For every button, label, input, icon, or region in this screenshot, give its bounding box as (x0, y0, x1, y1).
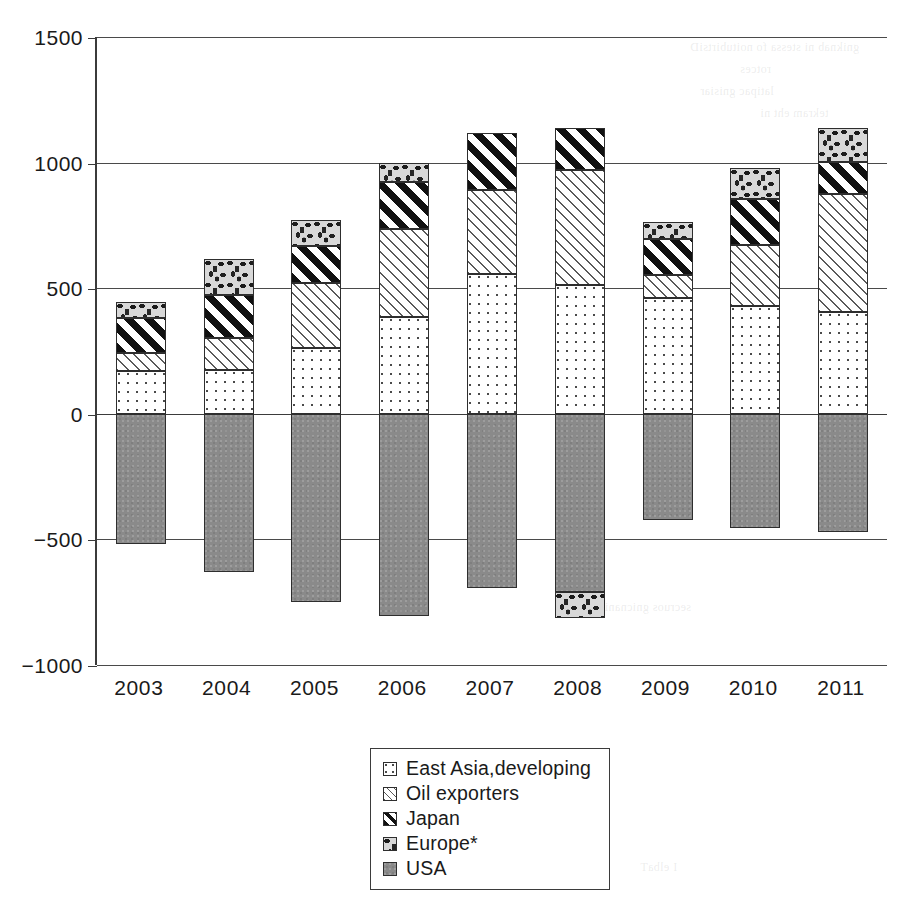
x-axis-label-2007: 2007 (465, 676, 514, 700)
legend-label: Oil exporters (406, 782, 519, 805)
bar-segment-2007-east-asia-developing[interactable] (467, 274, 517, 414)
bar-segment-2005-east-asia-developing[interactable] (291, 348, 341, 413)
y-axis-label-0: 0 (71, 403, 83, 427)
y-tick-mark-1500 (88, 38, 97, 39)
legend-label: Europe* (406, 832, 478, 855)
bar-segment-2005-oil-exporters[interactable] (291, 283, 341, 348)
legend-item-japan[interactable]: Japan (383, 806, 599, 831)
bar-segment-2005-usa[interactable] (291, 414, 341, 602)
legend-item-europe[interactable]: Europe* (383, 831, 599, 856)
x-axis-label-2004: 2004 (202, 676, 251, 700)
legend-swatch-icon (383, 787, 397, 801)
y-tick-mark-0 (88, 415, 97, 416)
bar-segment-2004-usa[interactable] (204, 414, 254, 573)
gridline--1000: −1000 (97, 665, 887, 666)
bar-segment-2006-europe[interactable] (379, 163, 429, 182)
bar-segment-2009-east-asia-developing[interactable] (643, 298, 693, 413)
x-axis-label-2006: 2006 (378, 676, 427, 700)
bar-group-2007[interactable] (467, 37, 517, 665)
bar-segment-2004-east-asia-developing[interactable] (204, 370, 254, 414)
bar-segment-2003-east-asia-developing[interactable] (116, 371, 166, 414)
bar-segment-2010-japan[interactable] (730, 199, 780, 246)
bar-group-2011[interactable] (818, 37, 868, 665)
bar-segment-2007-oil-exporters[interactable] (467, 190, 517, 274)
legend-item-east-asia-developing[interactable]: East Asia,developing (383, 756, 599, 781)
legend-swatch-icon (383, 812, 397, 826)
chart-legend: East Asia,developingOil exportersJapanEu… (370, 748, 610, 890)
bar-segment-2005-europe[interactable] (291, 220, 341, 246)
legend-item-oil-exporters[interactable]: Oil exporters (383, 781, 599, 806)
legend-swatch-icon (383, 762, 397, 776)
bar-segment-2009-japan[interactable] (643, 239, 693, 275)
bar-segment-2011-europe[interactable] (818, 128, 868, 162)
bar-segment-2009-usa[interactable] (643, 414, 693, 520)
x-axis-label-2003: 2003 (114, 676, 163, 700)
y-tick-mark-500 (88, 289, 97, 290)
bar-segment-2004-japan[interactable] (204, 295, 254, 339)
y-tick-mark--500 (88, 540, 97, 541)
bar-segment-2010-europe[interactable] (730, 168, 780, 199)
x-axis-label-2008: 2008 (553, 676, 602, 700)
legend-swatch-icon (383, 862, 397, 876)
bar-segment-2010-usa[interactable] (730, 414, 780, 528)
plot-area: 150010005000−500−1000 (95, 37, 885, 665)
bar-group-2004[interactable] (204, 37, 254, 665)
x-axis-label-2011: 2011 (817, 676, 865, 700)
bar-segment-2008-europe-negative[interactable] (555, 592, 605, 618)
bar-segment-2003-japan[interactable] (116, 318, 166, 353)
bar-segment-2004-europe[interactable] (204, 259, 254, 295)
x-axis-label-2009: 2009 (641, 676, 690, 700)
bar-group-2005[interactable] (291, 37, 341, 665)
bar-segment-2010-east-asia-developing[interactable] (730, 306, 780, 414)
y-tick-mark-1000 (88, 164, 97, 165)
bar-segment-2011-usa[interactable] (818, 414, 868, 532)
y-axis-label--500: −500 (34, 528, 83, 552)
y-axis-label-1000: 1000 (34, 152, 83, 176)
bar-segment-2011-oil-exporters[interactable] (818, 194, 868, 312)
bar-segment-2009-europe[interactable] (643, 222, 693, 239)
bar-segment-2011-japan[interactable] (818, 162, 868, 194)
bar-segment-2005-japan[interactable] (291, 246, 341, 283)
bar-group-2006[interactable] (379, 37, 429, 665)
legend-label: East Asia,developing (406, 757, 591, 780)
bar-segment-2011-east-asia-developing[interactable] (818, 312, 868, 414)
bar-group-2003[interactable] (116, 37, 166, 665)
bar-segment-2003-europe[interactable] (116, 302, 166, 318)
bar-segment-2006-usa[interactable] (379, 414, 429, 616)
bar-group-2010[interactable] (730, 37, 780, 665)
bar-segment-2008-east-asia-developing[interactable] (555, 285, 605, 414)
bar-segment-2008-japan[interactable] (555, 128, 605, 170)
bar-segment-2004-oil-exporters[interactable] (204, 338, 254, 369)
bar-segment-2003-usa[interactable] (116, 414, 166, 545)
y-axis-label--1000: −1000 (22, 654, 83, 678)
bar-segment-2009-oil-exporters[interactable] (643, 275, 693, 298)
x-axis-label-2010: 2010 (729, 676, 778, 700)
legend-label: Japan (406, 807, 460, 830)
bar-segment-2006-oil-exporters[interactable] (379, 229, 429, 317)
bar-group-2009[interactable] (643, 37, 693, 665)
bar-segment-2008-usa[interactable] (555, 414, 605, 592)
bar-segment-2006-japan[interactable] (379, 182, 429, 229)
bar-segment-2008-oil-exporters[interactable] (555, 170, 605, 285)
legend-label: USA (406, 857, 447, 880)
legend-swatch-icon (383, 837, 397, 851)
bar-group-2008[interactable] (555, 37, 605, 665)
bar-segment-2003-oil-exporters[interactable] (116, 353, 166, 371)
bar-segment-2007-usa[interactable] (467, 414, 517, 588)
bar-segment-2007-japan[interactable] (467, 133, 517, 190)
y-tick-mark--1000 (88, 666, 97, 667)
bar-segment-2010-oil-exporters[interactable] (730, 245, 780, 305)
legend-item-usa[interactable]: USA (383, 856, 599, 881)
y-axis-label-1500: 1500 (34, 26, 83, 50)
bar-segment-2006-east-asia-developing[interactable] (379, 317, 429, 414)
x-axis-label-2005: 2005 (290, 676, 339, 700)
y-axis-label-500: 500 (46, 277, 83, 301)
